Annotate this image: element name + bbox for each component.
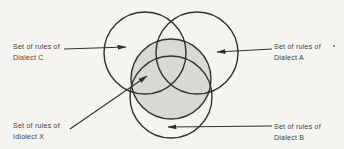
label-dialect-a: Set of rules of Dialect A xyxy=(274,42,321,63)
dialect-b-arrow xyxy=(168,126,272,127)
label-dialect-b: Set of rules of Dialect B xyxy=(274,122,321,143)
label-dialect-c: Set of rules of Dialect C xyxy=(13,42,60,63)
label-dialect-a-line1: Set of rules of xyxy=(274,42,321,53)
label-idiolect-x: Set of rules of Idiolect X xyxy=(13,121,60,142)
dialect-a-arrow xyxy=(217,49,272,52)
label-dialect-b-line2: Dialect B xyxy=(274,133,321,144)
dialect-c-arrow xyxy=(64,47,126,49)
label-dialect-a-line2: Dialect A xyxy=(274,53,321,64)
label-dialect-b-line1: Set of rules of xyxy=(274,122,321,133)
label-dialect-c-line1: Set of rules of xyxy=(13,42,60,53)
label-idiolect-x-line2: Idiolect X xyxy=(13,132,60,143)
venn-diagram-figure: Set of rules of Dialect C Set of rules o… xyxy=(0,0,344,149)
idiolect-x-arrow xyxy=(70,76,147,129)
label-dialect-c-line2: Dialect C xyxy=(13,53,60,64)
scan-speckle xyxy=(333,45,335,47)
label-idiolect-x-line1: Set of rules of xyxy=(13,121,60,132)
